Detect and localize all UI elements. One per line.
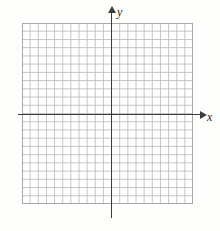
x-axis-label: x	[207, 111, 212, 123]
y-axis-line	[111, 11, 112, 218]
coordinate-grid-figure: x y	[0, 0, 220, 231]
y-axis-label: y	[117, 6, 122, 18]
page-bottom-edge	[0, 225, 220, 231]
y-axis-arrow-icon	[108, 6, 116, 13]
x-axis-arrow-icon	[200, 111, 207, 119]
